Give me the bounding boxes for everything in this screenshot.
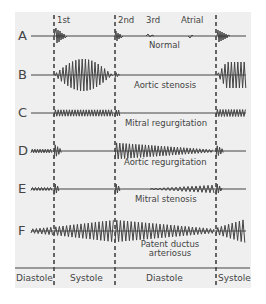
phase-systole-1: Systole bbox=[70, 273, 103, 283]
phase-diastole-1: Diastole bbox=[16, 273, 53, 283]
caption-mitral-stenosis: Mitral stenosis bbox=[135, 194, 197, 204]
caption-normal: Normal bbox=[149, 40, 180, 50]
row-label-f: F bbox=[18, 223, 25, 238]
caption-patent-ductus-arteriosus: Patent ductus arteriosus bbox=[125, 240, 215, 258]
trace-normal bbox=[31, 28, 246, 43]
phase-diastole-2: Diastole bbox=[146, 273, 183, 283]
atrial-sound-label: Atrial bbox=[181, 15, 203, 25]
phonocardiogram-traces bbox=[0, 0, 266, 304]
row-label-c: C bbox=[18, 105, 27, 120]
row-label-d: D bbox=[18, 143, 28, 158]
caption-aortic-stenosis: Aortic stenosis bbox=[134, 80, 196, 90]
caption-aortic-regurgitation: Aortic regurgitation bbox=[124, 157, 207, 167]
third-sound-label: 3rd bbox=[146, 15, 160, 25]
caption-mitral-regurgitation: Mitral regurgitation bbox=[125, 118, 207, 128]
phase-systole-2: Systole bbox=[218, 273, 251, 283]
row-label-a: A bbox=[18, 28, 27, 43]
caption-pda-line2: arteriosus bbox=[125, 249, 215, 258]
second-sound-label: 2nd bbox=[118, 15, 134, 25]
row-label-b: B bbox=[18, 67, 27, 82]
first-sound-label: 1st bbox=[57, 15, 70, 25]
row-label-e: E bbox=[18, 181, 26, 196]
